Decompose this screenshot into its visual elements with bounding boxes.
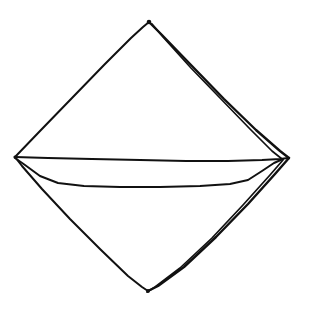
upper-left-edge-path [15, 22, 149, 157]
lower-left-edge-path [15, 157, 148, 291]
top-apex-ink-blob [147, 20, 152, 25]
sketch-canvas [0, 0, 309, 318]
lower-fold-line-path [15, 158, 283, 187]
left-vertex-ink-blob [13, 155, 16, 158]
lower-right-edge-inner-path [147, 160, 283, 292]
upper-right-edge-outer-path [149, 22, 289, 158]
bottom-apex-ink-blob [146, 289, 150, 293]
napkin-sketch-svg [0, 0, 309, 318]
upper-fold-line-path [15, 157, 288, 161]
